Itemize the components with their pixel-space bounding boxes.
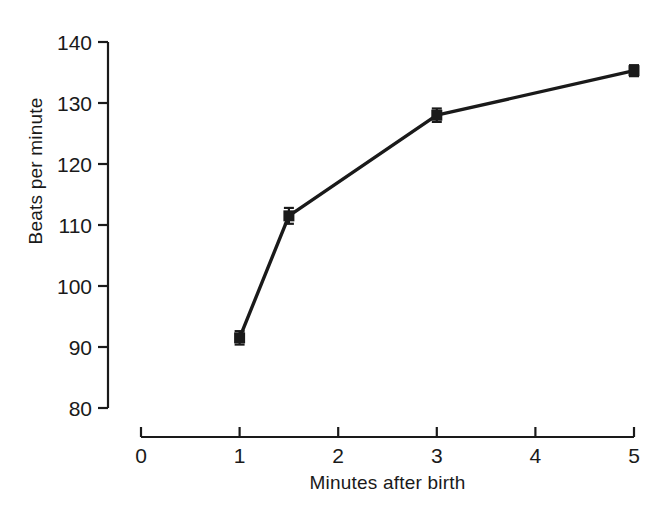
y-tick-label: 90 bbox=[69, 336, 92, 359]
y-axis-label: Beats per minute bbox=[25, 71, 47, 271]
x-tick-label: 3 bbox=[431, 444, 443, 467]
y-tick-label: 120 bbox=[57, 153, 92, 176]
chart-figure: Beats per minute Minutes after birth 809… bbox=[0, 0, 669, 513]
data-point-with-errorbar bbox=[234, 331, 245, 344]
x-tick-label: 5 bbox=[628, 444, 640, 467]
x-tick-label: 1 bbox=[234, 444, 246, 467]
x-axis-label: Minutes after birth bbox=[141, 472, 634, 494]
data-point-with-errorbar bbox=[629, 65, 640, 76]
y-tick-label: 80 bbox=[69, 397, 92, 420]
data-series-heart-rate bbox=[234, 65, 639, 344]
y-axis: 8090100110120130140 bbox=[57, 31, 108, 420]
x-tick-label: 0 bbox=[135, 444, 147, 467]
data-point-with-errorbar bbox=[431, 108, 442, 121]
x-tick-label: 2 bbox=[332, 444, 344, 467]
y-tick-label: 130 bbox=[57, 92, 92, 115]
x-axis: 012345 bbox=[135, 427, 640, 467]
y-tick-label: 140 bbox=[57, 31, 92, 54]
y-tick-label: 110 bbox=[59, 214, 92, 237]
y-tick-label: 100 bbox=[57, 275, 92, 298]
x-tick-label: 4 bbox=[530, 444, 542, 467]
plot-area: 8090100110120130140 012345 bbox=[0, 0, 669, 513]
